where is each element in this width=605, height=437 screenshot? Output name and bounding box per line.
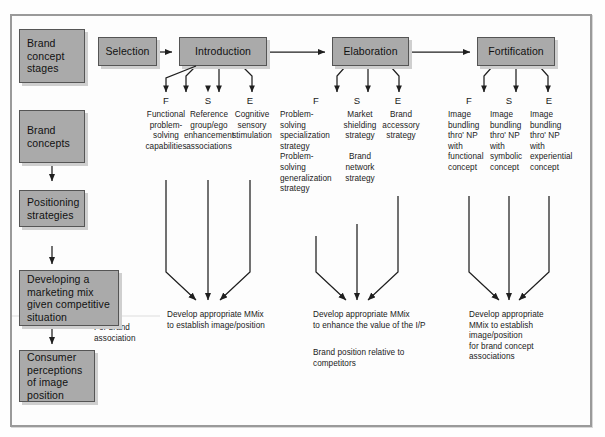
outcome-intro-1: Develop appropriate MMix to establish im… (167, 310, 307, 331)
branch-text-elab-f: Problem- solving specialization strategy… (280, 110, 342, 195)
box-label: Brand concept stages (20, 37, 84, 75)
outcome-elab-2: Brand position relative to competitors (313, 348, 463, 369)
branch-text-intro-e: Cognitive sensory stimulation (226, 110, 278, 142)
box-developing-marketing-mix[interactable]: Developing a marketing mix given competi… (19, 270, 119, 326)
outcome-elab-1: Develop appropriate MMix to enhance the … (313, 310, 463, 331)
box-label: Fortification (478, 45, 554, 58)
branch-code-intro-s: S (194, 96, 222, 106)
branch-code-fort-f: F (455, 96, 483, 106)
box-fortification[interactable]: Fortification (477, 37, 555, 66)
box-positioning-strategies[interactable]: Positioning strategies (19, 190, 85, 227)
box-introduction[interactable]: Introduction (179, 37, 267, 66)
box-label: Introduction (180, 45, 266, 58)
branch-code-intro-f: F (152, 96, 180, 106)
box-elaboration[interactable]: Elaboration (332, 37, 409, 66)
annotation-for-brand-association: For brand association (94, 323, 156, 344)
box-label: Elaboration (333, 45, 408, 58)
branch-text-fort-f: Image bundling thro' NP with functional … (448, 110, 492, 174)
branch-text-elab-s: Market shielding strategy Brand network … (338, 110, 382, 184)
branch-code-elab-s: S (343, 96, 371, 106)
box-label: Positioning strategies (20, 196, 86, 221)
branch-text-elab-e: Brand accessory strategy (378, 110, 424, 142)
box-label: Selection (99, 45, 156, 58)
branch-code-elab-e: E (384, 96, 412, 106)
branch-code-fort-e: E (535, 96, 563, 106)
branch-code-fort-s: S (495, 96, 523, 106)
box-selection[interactable]: Selection (98, 37, 157, 66)
box-label: Consumer perceptions of image position (20, 351, 94, 401)
box-label: Developing a marketing mix given competi… (20, 273, 118, 323)
branch-code-elab-f: F (302, 96, 330, 106)
box-brand-concept-stages[interactable]: Brand concept stages (19, 29, 85, 83)
branch-text-fort-e: Image bundling thro' NP with experientia… (530, 110, 582, 174)
diagram-canvas: F S E F S E F S E Functional problem- so… (0, 0, 605, 437)
branch-text-fort-s: Image bundling thro' NP with symbolic co… (490, 110, 534, 174)
box-label: Brand concepts (20, 124, 84, 149)
outcome-fort-1: Develop appropriate MMix to establish im… (469, 310, 581, 363)
box-brand-concepts[interactable]: Brand concepts (19, 110, 85, 163)
box-consumer-perceptions[interactable]: Consumer perceptions of image position (19, 350, 95, 402)
diagram-frame (10, 14, 592, 427)
branch-code-intro-e: E (236, 96, 264, 106)
